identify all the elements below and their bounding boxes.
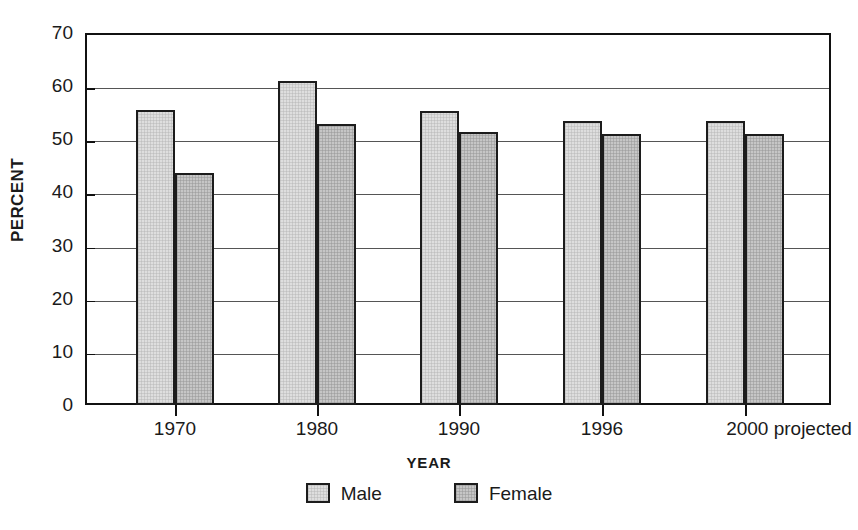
x-tick-mark xyxy=(175,405,177,416)
legend-swatch-female xyxy=(454,483,478,503)
y-axis-title: PERCENT xyxy=(8,140,28,260)
bar-1980-male xyxy=(278,81,317,405)
bar-1990-female xyxy=(459,132,498,405)
y-tick-label: 50 xyxy=(27,129,73,148)
y-tick-label: 60 xyxy=(27,76,73,95)
y-tick-label: 40 xyxy=(27,182,73,201)
bar-2000-female xyxy=(745,134,784,405)
bar-chart: PERCENT 010203040506070 1970198019901996… xyxy=(0,0,858,530)
y-tick-label: 0 xyxy=(27,395,73,414)
x-tick-mark xyxy=(459,405,461,416)
x-tick-label: 1970 xyxy=(154,419,196,438)
bar-1970-male xyxy=(136,110,175,405)
bars-layer xyxy=(85,33,831,405)
y-tick-label: 10 xyxy=(27,342,73,361)
bar-1996-male xyxy=(563,121,602,405)
x-tick-mark xyxy=(602,405,604,416)
chart-legend: MaleFemale xyxy=(0,483,858,503)
bar-1990-male xyxy=(420,111,459,405)
y-tick-label: 20 xyxy=(27,289,73,308)
x-tick-label: 1980 xyxy=(296,419,338,438)
x-tick-label: 2000 projected xyxy=(726,419,852,438)
bar-1996-female xyxy=(602,134,641,405)
legend-swatch-male xyxy=(306,483,330,503)
y-tick-label: 30 xyxy=(27,236,73,255)
legend-item-female: Female xyxy=(454,483,552,503)
bar-2000-male xyxy=(706,121,745,405)
x-tick-mark xyxy=(745,405,747,416)
legend-label: Female xyxy=(489,484,552,503)
legend-label: Male xyxy=(341,484,382,503)
bar-1970-female xyxy=(175,173,214,405)
bar-1980-female xyxy=(317,124,356,405)
legend-item-male: Male xyxy=(306,483,382,503)
x-axis-title: YEAR xyxy=(0,454,858,471)
x-tick-label: 1996 xyxy=(581,419,623,438)
x-tick-mark xyxy=(317,405,319,416)
y-tick-label: 70 xyxy=(27,23,73,42)
x-tick-label: 1990 xyxy=(438,419,480,438)
